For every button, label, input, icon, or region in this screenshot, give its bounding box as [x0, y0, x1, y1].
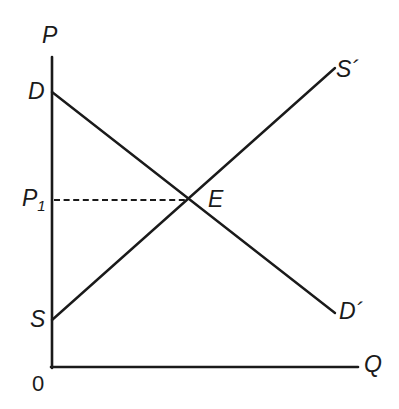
equilibrium-price-subscript: 1	[37, 197, 45, 214]
equilibrium-price-label: P1	[22, 187, 46, 210]
price-axis-label: P	[42, 24, 57, 47]
equilibrium-price-base: P	[22, 185, 37, 211]
supply-curve	[52, 68, 335, 320]
equilibrium-point-label: E	[208, 188, 223, 211]
demand-end-label: D´	[339, 300, 363, 323]
demand-curve	[52, 92, 335, 313]
supply-start-label: S	[30, 308, 45, 331]
demand-start-label: D	[28, 80, 45, 103]
supply-end-label: S´	[336, 58, 359, 81]
origin-label: 0	[32, 373, 44, 395]
quantity-axis-label: Q	[364, 353, 382, 376]
supply-demand-figure: P Q 0 D D´ S S´ E P1	[0, 0, 399, 409]
